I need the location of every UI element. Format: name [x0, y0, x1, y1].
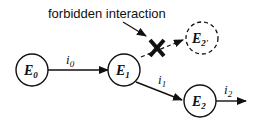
annotation-pointer-arrow	[123, 22, 146, 36]
edge-label-i0: i0	[66, 52, 75, 69]
node-e0: E0	[16, 54, 48, 86]
edge-label-i2: i2	[224, 82, 233, 99]
annotation-label: forbidden interaction	[48, 6, 166, 21]
edge-label-i1: i1	[158, 72, 166, 89]
node-e2prime: E2'	[186, 22, 218, 54]
interaction-diagram: forbidden interaction i0 i1 i2 E0 E1 E2 …	[0, 0, 261, 123]
node-e1: E1	[108, 54, 140, 86]
node-e2: E2	[184, 85, 216, 117]
